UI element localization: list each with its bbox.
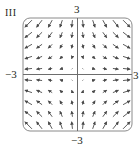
vector-arrow xyxy=(123,44,130,48)
vector-arrow xyxy=(113,56,118,58)
vector-arrow xyxy=(72,32,73,37)
vector-arrow xyxy=(123,20,130,27)
vector-arrow xyxy=(37,111,42,116)
vector-arrow xyxy=(48,111,52,116)
vector-arrow xyxy=(25,111,32,116)
vector-arrow xyxy=(48,56,52,58)
vector-arrow xyxy=(60,80,62,81)
vector-arrow xyxy=(25,80,32,81)
vector-arrow xyxy=(123,122,130,129)
vector-arrow xyxy=(25,20,32,27)
vector-arrow xyxy=(25,122,32,129)
vector-arrow xyxy=(83,56,84,58)
vector-arrow xyxy=(123,111,130,116)
vector-arrow xyxy=(25,32,32,37)
vector-arrow xyxy=(37,122,42,129)
vector-arrow xyxy=(123,56,130,58)
vector-arrow xyxy=(103,32,107,37)
vector-arrow xyxy=(123,32,130,37)
vector-arrow xyxy=(72,101,73,105)
vector-arrow xyxy=(93,122,95,129)
vector-arrow xyxy=(25,44,32,48)
vector-arrow xyxy=(83,122,84,129)
vector-arrow xyxy=(113,90,118,92)
vector-arrow xyxy=(123,90,130,92)
vector-arrow xyxy=(60,20,62,27)
vector-arrow xyxy=(103,111,107,116)
vector-field-plot xyxy=(0,0,139,149)
vector-arrow xyxy=(37,20,42,27)
vector-arrow xyxy=(48,68,52,69)
vector-arrow xyxy=(60,90,62,92)
vector-arrow xyxy=(37,44,42,48)
vector-arrow xyxy=(113,111,118,116)
vector-arrow xyxy=(37,90,42,92)
vector-arrow xyxy=(113,44,118,48)
vector-arrow xyxy=(93,32,95,37)
vector-arrow xyxy=(83,20,84,27)
vector-arrow xyxy=(113,20,118,27)
vector-arrow xyxy=(93,111,95,116)
vector-arrow xyxy=(83,111,84,116)
vector-arrow xyxy=(93,44,95,48)
vector-arrow xyxy=(83,68,84,69)
vector-arrow xyxy=(72,90,73,92)
vector-arrow xyxy=(48,20,52,27)
vector-arrow xyxy=(72,56,73,58)
vector-arrow xyxy=(72,44,73,48)
vector-arrow xyxy=(113,122,118,129)
vector-arrow xyxy=(60,44,62,48)
vector-arrow xyxy=(72,122,73,129)
vector-arrow xyxy=(60,111,62,116)
vector-arrow xyxy=(37,56,42,58)
vector-arrow xyxy=(83,44,84,48)
vector-arrow xyxy=(60,32,62,37)
vector-arrow xyxy=(83,80,84,81)
vector-arrow xyxy=(83,101,84,105)
vector-arrow xyxy=(93,90,95,92)
vector-arrow xyxy=(113,101,118,105)
vector-arrow xyxy=(48,90,52,92)
vector-arrow xyxy=(113,32,118,37)
vector-arrow xyxy=(93,80,95,81)
vector-arrow xyxy=(48,80,52,81)
vector-arrow xyxy=(93,68,95,69)
vector-arrow xyxy=(123,68,130,69)
vector-arrow xyxy=(113,68,118,69)
vector-arrow xyxy=(103,101,107,105)
vector-arrow xyxy=(123,101,130,105)
vector-arrow xyxy=(93,101,95,105)
vector-arrow xyxy=(48,122,52,129)
vector-arrow xyxy=(48,32,52,37)
vector-arrow xyxy=(37,68,42,69)
vector-arrow xyxy=(103,20,107,27)
vector-arrow xyxy=(60,101,62,105)
vector-arrow xyxy=(103,90,107,92)
vector-arrow xyxy=(72,20,73,27)
vector-arrow xyxy=(83,90,84,92)
vector-arrow xyxy=(72,68,73,69)
vector-arrow xyxy=(48,101,52,105)
vector-arrow xyxy=(25,56,32,58)
vector-arrow xyxy=(48,44,52,48)
vector-arrow xyxy=(37,80,42,81)
vector-arrow xyxy=(103,44,107,48)
vector-arrow xyxy=(25,68,32,69)
vector-arrow xyxy=(37,101,42,105)
vector-arrow xyxy=(103,122,107,129)
vector-arrow xyxy=(60,122,62,129)
vector-arrow xyxy=(72,80,73,81)
vector-arrow xyxy=(113,80,118,81)
vector-arrow xyxy=(93,20,95,27)
vector-arrow xyxy=(25,90,32,92)
vector-arrow xyxy=(37,32,42,37)
vector-arrow xyxy=(83,32,84,37)
vector-arrow xyxy=(103,68,107,69)
vector-arrow xyxy=(72,111,73,116)
vector-arrow xyxy=(60,56,62,58)
vector-arrow xyxy=(103,56,107,58)
vector-arrow xyxy=(60,68,62,69)
vector-arrow xyxy=(123,80,130,81)
vector-arrow xyxy=(25,101,32,105)
vector-arrow xyxy=(103,80,107,81)
